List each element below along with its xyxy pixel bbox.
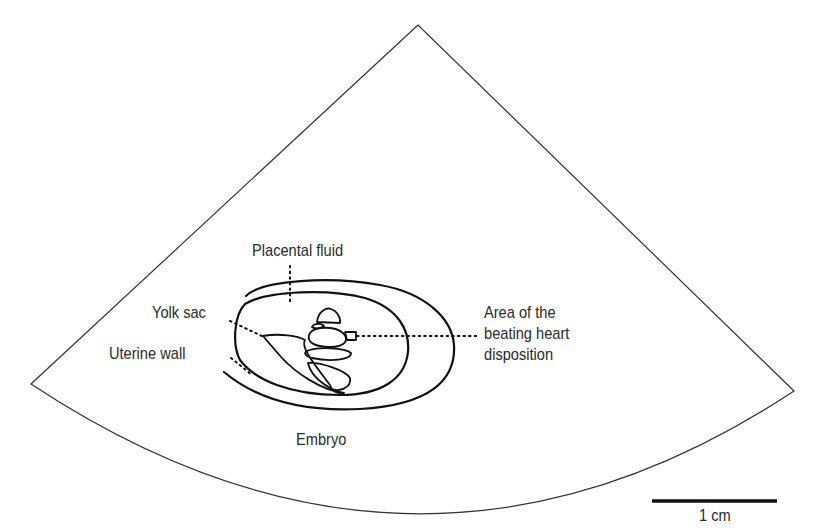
embryo-mid-lobe-shape bbox=[305, 348, 351, 360]
yolk-sac-label: Yolk sac bbox=[152, 302, 206, 323]
embryo-label: Embryo bbox=[296, 429, 346, 450]
embryo-lower-lobe-shape bbox=[308, 363, 350, 390]
heart-marker-shape bbox=[345, 332, 356, 340]
heart-area-label-line-3: disposition bbox=[484, 344, 569, 365]
placental-fluid-label: Placental fluid bbox=[252, 240, 343, 261]
heart-area-label-line-2: beating heart bbox=[484, 323, 569, 344]
uterine-wall-label: Uterine wall bbox=[109, 343, 185, 364]
ultrasound-sector-outline bbox=[31, 25, 794, 514]
embryo-drawing bbox=[263, 309, 356, 394]
scale-bar-label: 1 cm bbox=[699, 505, 731, 526]
heart-area-label: Area of the beating heart disposition bbox=[484, 302, 569, 365]
inner-sac-outline bbox=[235, 292, 408, 395]
heart-area-label-line-1: Area of the bbox=[484, 302, 569, 323]
embryo-head-shape bbox=[317, 309, 340, 323]
ultrasound-diagram bbox=[0, 0, 821, 531]
embryo-body-shape bbox=[309, 328, 346, 347]
